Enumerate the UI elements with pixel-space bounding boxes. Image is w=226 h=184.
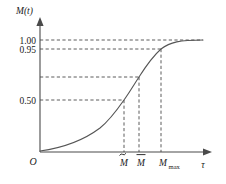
figure-container: 1.00 0.95 0.50 M(t) O M M M max τ (0, 0, 226, 184)
x-tick-label-m-tilde: M (119, 158, 129, 168)
y-axis-title: M(t) (15, 6, 33, 17)
sigmoid-chart-svg: 1.00 0.95 0.50 M(t) O M M M max τ (0, 0, 226, 184)
x-axis-arrow-icon (203, 148, 212, 155)
x-axis-title: τ (201, 160, 205, 170)
x-tick-label-m-max-base: M (158, 158, 168, 168)
y-tick-label-0-50: 0.50 (19, 96, 36, 106)
y-tick-label-0-95: 0.95 (19, 45, 36, 55)
y-axis-arrow-icon (36, 17, 43, 26)
x-tick-label-m-max-subscript: max (169, 163, 181, 170)
x-tick-m-max: M max (158, 158, 181, 170)
x-tick-label-m-bar: M (136, 158, 146, 168)
x-tick-m-bar: M (136, 155, 146, 168)
x-tick-m-tilde: M (119, 153, 129, 168)
tilde-accent-icon (120, 153, 126, 155)
origin-label: O (29, 156, 36, 167)
sigmoid-curve (40, 40, 203, 151)
